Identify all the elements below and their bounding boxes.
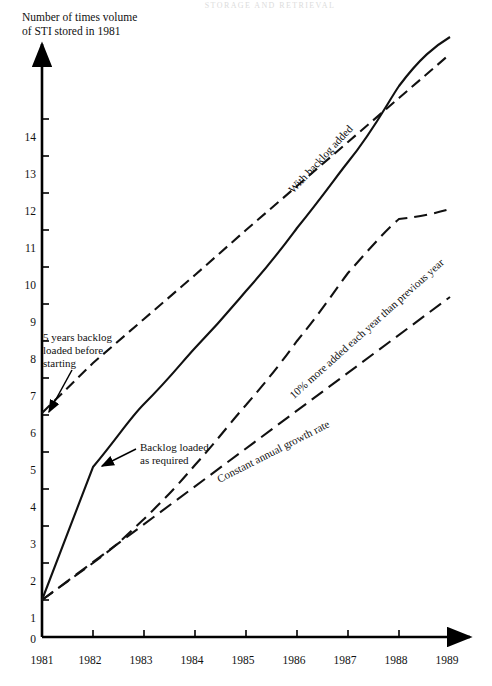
series-line-constant-growth [42,297,450,600]
series-line-with-backlog-added [42,54,450,413]
chart-svg [0,0,492,686]
series-line-backlog-as-required [42,37,450,600]
annotation-arrow-backlog-as-required [102,449,136,466]
chart-figure: STORAGE AND RETRIEVAL Number of times vo… [0,0,492,686]
annotation-arrow-backlog-before-starting [49,370,72,412]
series-line-ten-percent-more [42,209,450,600]
